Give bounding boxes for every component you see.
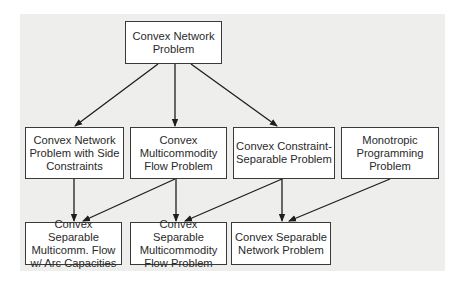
node-monotropic-programming: Monotropic Programming Problem xyxy=(341,127,439,179)
node-convex-separable-multicomm-arc-capacities: Convex Separable Multicomm. Flow w/ Arc … xyxy=(25,222,122,265)
arrow-n2-to-n5 xyxy=(83,179,175,221)
node-convex-constraint-separable: Convex Constraint- Separable Problem xyxy=(233,127,335,179)
node-convex-multicommodity-flow: Convex Multicommodity Flow Problem xyxy=(130,127,227,179)
arrow-n4-to-n7 xyxy=(289,179,390,221)
node-convex-network-problem: Convex Network Problem xyxy=(125,21,222,64)
node-convex-network-side-constraints: Convex Network Problem with Side Constra… xyxy=(25,127,124,179)
arrow-n0-to-n3 xyxy=(191,64,277,126)
node-convex-separable-network-problem: Convex Separable Network Problem xyxy=(231,222,331,265)
node-convex-separable-multicommodity-flow: Convex Separable Multicommodity Flow Pro… xyxy=(130,222,227,265)
arrow-n3-to-n6 xyxy=(185,179,282,221)
arrow-n0-to-n1 xyxy=(75,64,158,126)
